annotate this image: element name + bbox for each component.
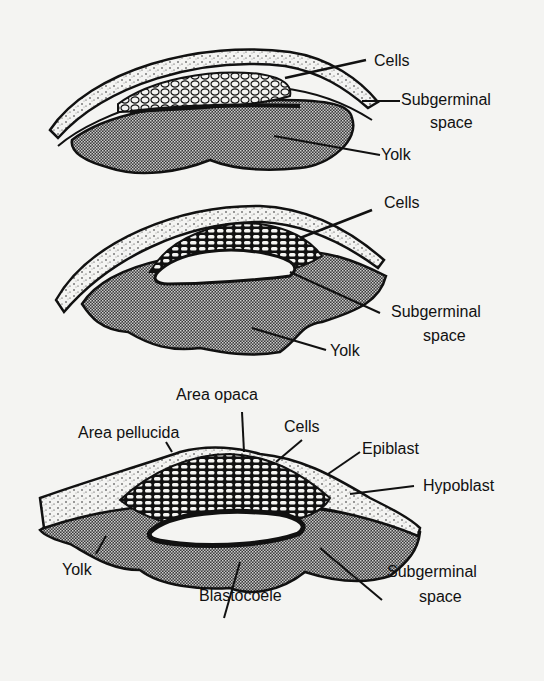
stage-1-diagram: Cells Subgerminal space Yolk [0, 0, 544, 180]
label-space: space [423, 327, 466, 345]
label-blastocoele: Blastocoele [199, 587, 282, 605]
label-area-opaca: Area opaca [176, 386, 258, 404]
label-space: space [430, 114, 473, 132]
label-area-pellucida: Area pellucida [78, 424, 179, 442]
stage-3-diagram: Area opaca Area pellucida Cells Epiblast… [0, 380, 544, 681]
label-yolk: Yolk [62, 561, 92, 579]
label-hypoblast: Hypoblast [423, 477, 494, 495]
stage-2-diagram: Cells Subgerminal space Yolk [0, 180, 544, 380]
yolk-mass [72, 100, 354, 173]
stage-1-illustration [0, 0, 544, 180]
label-cells: Cells [384, 194, 420, 212]
label-cells: Cells [284, 418, 320, 436]
label-yolk: Yolk [381, 146, 411, 164]
label-epiblast: Epiblast [362, 440, 419, 458]
label-subgerminal: Subgerminal [387, 563, 477, 581]
stage-2-illustration [0, 180, 544, 380]
label-cells: Cells [374, 52, 410, 70]
label-yolk: Yolk [330, 342, 360, 360]
label-space: space [419, 588, 462, 606]
label-subgerminal: Subgerminal [391, 303, 481, 321]
label-subgerminal: Subgerminal [401, 91, 491, 109]
